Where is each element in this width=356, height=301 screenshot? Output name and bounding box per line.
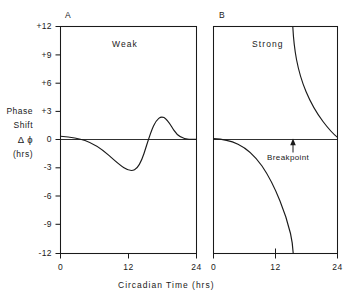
panel-b-x-ticks — [214, 254, 338, 259]
y-tick-label: -9 — [26, 220, 52, 229]
panel-a-frame — [61, 27, 197, 254]
panel-b-frame — [214, 27, 338, 254]
panel-b-x-tick-label: 0 — [204, 263, 224, 272]
x-axis-title: Circadian Time (hrs) — [118, 281, 215, 290]
weak-prc-curve — [61, 117, 197, 170]
panel-b-x-tick-label: 12 — [266, 263, 286, 272]
phase-response-curve-plot — [0, 0, 356, 301]
panel-a-title: Weak — [112, 40, 138, 49]
panel-b-letter: B — [219, 11, 225, 20]
y-tick-label: +6 — [26, 79, 52, 88]
y-axis-title-symbol: Δ ϕ — [0, 135, 33, 145]
panel-a-letter: A — [65, 11, 71, 20]
y-axis-title-units: (hrs) — [0, 150, 33, 159]
figure-container: A B Weak Strong +12 +9 +6 +3 0 -3 -6 -9 … — [0, 0, 356, 301]
y-tick-label: -12 — [26, 249, 52, 258]
y-axis-title-line-1: Phase — [0, 107, 33, 116]
panel-a-x-ticks — [61, 254, 197, 259]
panel-b-x-tick-label: 24 — [328, 263, 348, 272]
breakpoint-label: Breakpoint — [267, 154, 309, 162]
y-tick-label: +12 — [26, 22, 52, 31]
y-axis-title-line-2: Shift — [0, 121, 33, 130]
y-axis-ticks — [56, 27, 61, 254]
y-tick-label: +9 — [26, 51, 52, 60]
panel-a-x-tick-label: 0 — [51, 263, 71, 272]
strong-prc-upper-branch — [293, 27, 338, 138]
panel-b-title: Strong — [252, 40, 284, 49]
panel-a-x-tick-label: 12 — [119, 263, 139, 272]
breakpoint-arrow — [290, 139, 296, 153]
y-tick-label: -6 — [26, 192, 52, 201]
y-tick-label: -3 — [26, 163, 52, 172]
